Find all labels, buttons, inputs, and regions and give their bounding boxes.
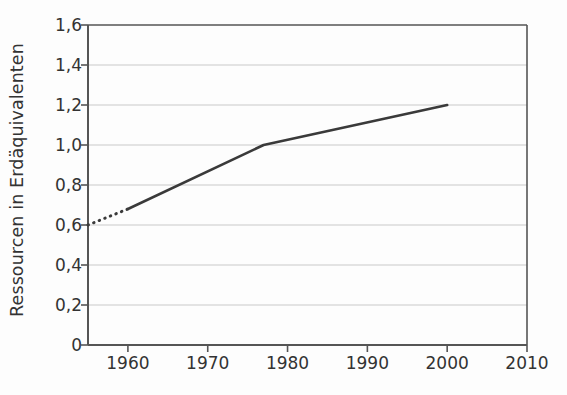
- plot-area: [88, 25, 527, 345]
- axis-ticks: [81, 25, 527, 352]
- gridlines: [88, 65, 527, 305]
- plot-svg: [74, 25, 541, 359]
- y-axis-title: Ressourcen in Erdäquivalenten: [0, 0, 34, 360]
- data-series: [88, 105, 447, 225]
- chart-container: Ressourcen in Erdäquivalenten 00,20,40,6…: [0, 0, 567, 395]
- data-line: [88, 209, 128, 225]
- data-line: [128, 105, 447, 209]
